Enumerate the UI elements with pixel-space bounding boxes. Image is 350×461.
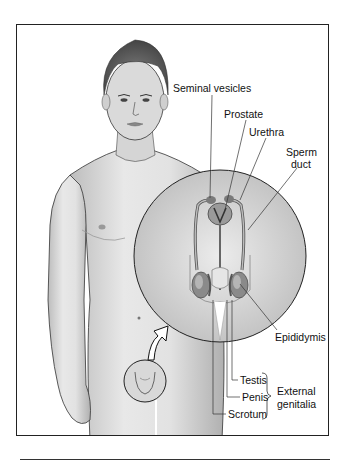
label-scrotum: Scrotum (228, 408, 267, 420)
left-arm (48, 175, 91, 424)
label-epididymis: Epididymis (275, 331, 326, 343)
label-penis: Penis (242, 391, 268, 403)
head (106, 60, 164, 140)
label-testis: Testis (240, 374, 267, 386)
label-urethra: Urethra (249, 126, 284, 138)
bottom-divider (20, 459, 330, 460)
label-prostate: Prostate (224, 108, 263, 120)
label-seminal-vesicles: Seminal vesicles (173, 82, 251, 94)
groin-circle (124, 360, 166, 402)
label-sperm-duct-2: duct (291, 158, 311, 170)
label-external-genitalia-1: External (277, 385, 316, 397)
label-sperm-duct-1: Sperm (286, 146, 317, 158)
label-external-genitalia-2: genitalia (277, 398, 316, 410)
